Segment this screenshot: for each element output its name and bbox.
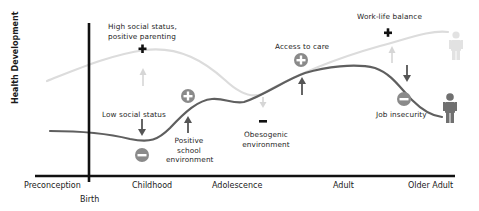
health-trajectory-diagram xyxy=(0,0,479,211)
faded-up-arrow-icon xyxy=(389,46,396,63)
label-work-life-balance: Work-life balance xyxy=(357,12,422,22)
label-line: positive parenting xyxy=(108,32,177,42)
label-line: school xyxy=(166,146,212,156)
label-obesogenic-environment: Obesogenic environment xyxy=(241,130,291,149)
person-icon xyxy=(443,93,457,123)
x-tick-older-adult: Older Adult xyxy=(408,181,453,190)
minus-circle-icon xyxy=(397,92,411,106)
label-line: High social status, xyxy=(108,22,177,32)
label-access-to-care: Access to care xyxy=(275,42,329,52)
label-line: Obesogenic xyxy=(241,130,291,140)
up-arrow-icon xyxy=(184,116,192,133)
minus-circle-icon xyxy=(135,148,149,162)
optimal-trajectory-curve xyxy=(47,32,448,96)
label-job-insecurity: Job insecurity xyxy=(376,110,427,120)
plus-circle-icon xyxy=(181,89,195,103)
person-faded-icon xyxy=(449,31,463,60)
label-low-social-status: Low social status xyxy=(102,110,166,120)
plus-icon xyxy=(384,28,392,37)
label-high-social-status: High social status, positive parenting xyxy=(108,22,177,41)
label-line: Positive xyxy=(166,136,212,146)
label-positive-school-environment: Positive school environment xyxy=(166,136,212,165)
faded-up-arrow-icon xyxy=(140,68,147,86)
y-axis-label: Health Development xyxy=(11,11,20,104)
label-line: environment xyxy=(166,155,212,165)
down-arrow-icon xyxy=(138,119,146,136)
x-tick-adult: Adult xyxy=(333,181,354,190)
up-arrow-icon xyxy=(298,77,306,95)
faded-down-arrow-icon xyxy=(260,97,267,108)
plus-circle-icon xyxy=(294,53,308,67)
down-arrow-icon xyxy=(403,65,411,82)
x-tick-preconception: Preconception xyxy=(24,181,81,190)
x-tick-birth: Birth xyxy=(80,195,99,204)
minus-icon xyxy=(259,120,267,123)
label-line: environment xyxy=(241,140,291,150)
x-tick-adolescence: Adolescence xyxy=(212,181,262,190)
x-tick-childhood: Childhood xyxy=(132,181,172,190)
